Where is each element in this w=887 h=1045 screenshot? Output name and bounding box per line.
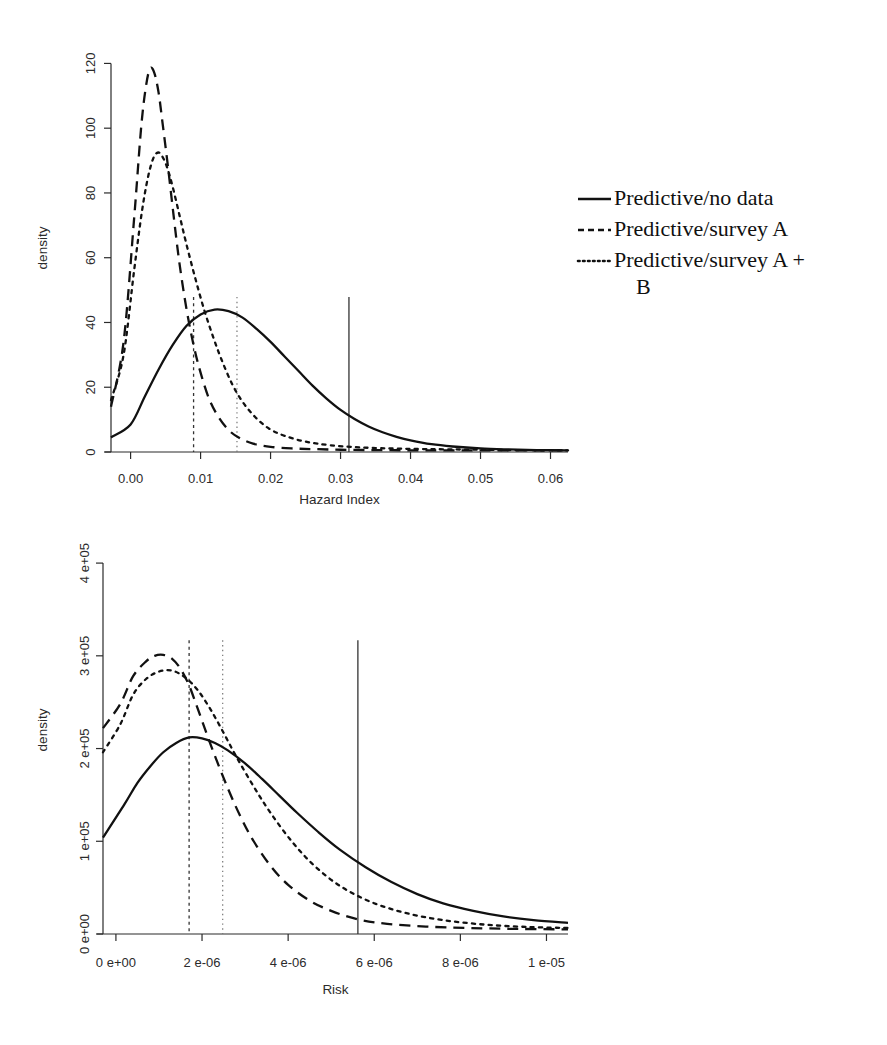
panel-hazard-index-density: 0.000.010.020.030.040.050.06020406080100… — [35, 53, 568, 507]
legend-label-2: Predictive/survey A + — [614, 247, 805, 272]
y-tick-label-4: 80 — [83, 186, 98, 200]
density-curve-dotted — [103, 670, 568, 928]
density-curve-solid — [103, 737, 568, 923]
y-tick-label-3: 60 — [83, 250, 98, 264]
x-tick-label-0: 0.00 — [118, 471, 143, 486]
y-tick-label-4: 4 e+05 — [77, 543, 92, 583]
x-axis-title: Hazard Index — [299, 492, 380, 507]
x-tick-label-3: 6 e-06 — [356, 955, 393, 970]
panel-risk-density: 0 e+002 e-064 e-066 e-068 e-061 e-050 e+… — [35, 543, 568, 997]
x-tick-label-4: 0.04 — [398, 471, 423, 486]
legend-label-2-wrap: B — [636, 274, 651, 299]
y-tick-label-2: 2 e+05 — [77, 728, 92, 768]
y-tick-label-1: 20 — [83, 380, 98, 394]
y-tick-label-6: 120 — [83, 53, 98, 75]
x-tick-label-6: 0.06 — [538, 471, 563, 486]
x-tick-label-1: 2 e-06 — [184, 955, 221, 970]
x-tick-label-1: 0.01 — [188, 471, 213, 486]
y-tick-label-2: 40 — [83, 315, 98, 329]
legend-label-1: Predictive/survey A — [614, 216, 788, 241]
legend: Predictive/no dataPredictive/survey APre… — [578, 185, 805, 299]
x-tick-label-3: 0.03 — [328, 471, 353, 486]
y-tick-label-5: 100 — [83, 117, 98, 139]
y-tick-label-0: 0 — [83, 448, 98, 455]
density-curve-dotted — [111, 152, 568, 450]
density-curve-dashed — [111, 68, 568, 451]
x-tick-label-2: 0.02 — [258, 471, 283, 486]
y-tick-label-1: 1 e+05 — [77, 821, 92, 861]
x-tick-label-0: 0 e+00 — [96, 955, 136, 970]
density-curve-dashed — [103, 655, 568, 930]
legend-label-0: Predictive/no data — [614, 185, 774, 210]
y-tick-label-0: 0 e+00 — [77, 914, 92, 954]
density-figure: 0.000.010.020.030.040.050.06020406080100… — [0, 0, 887, 1045]
y-axis-title: density — [35, 708, 50, 751]
x-axis-title: Risk — [322, 982, 348, 997]
density-curve-solid — [111, 309, 568, 450]
x-tick-label-2: 4 e-06 — [270, 955, 307, 970]
y-axis-title: density — [35, 226, 50, 269]
x-tick-label-4: 8 e-06 — [442, 955, 479, 970]
y-tick-label-3: 3 e+05 — [77, 636, 92, 676]
x-tick-label-5: 0.05 — [468, 471, 493, 486]
x-tick-label-5: 1 e-05 — [528, 955, 565, 970]
